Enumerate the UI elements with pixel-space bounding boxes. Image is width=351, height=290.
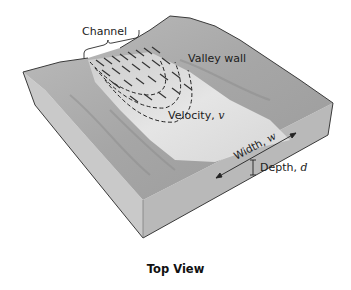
depth-variable: d: [301, 161, 308, 174]
stream-block-diagram: [0, 0, 351, 290]
depth-text: Depth,: [260, 161, 297, 174]
velocity-label: Velocity, v: [168, 110, 224, 121]
depth-label: Depth, d: [260, 162, 308, 173]
velocity-text: Velocity,: [168, 109, 215, 122]
channel-label: Channel: [82, 26, 127, 37]
figure-caption: Top View: [0, 262, 351, 276]
valley-wall-label: Valley wall: [188, 53, 246, 64]
velocity-variable: v: [218, 109, 224, 122]
